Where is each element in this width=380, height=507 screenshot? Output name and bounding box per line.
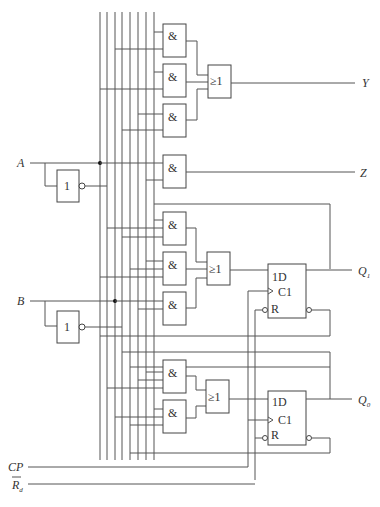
clock-reset-inputs: CP Rd [8, 460, 255, 494]
svg-text:&: & [168, 161, 178, 175]
svg-text:&: & [168, 298, 178, 312]
input-rd-label: Rd [11, 478, 23, 494]
svg-text:≥1: ≥1 [210, 74, 223, 88]
svg-text:&: & [168, 70, 178, 84]
output-q0-label: Q0 [358, 393, 371, 409]
svg-text:R: R [271, 428, 279, 442]
output-y-logic: & & & ≥1 Y [100, 24, 370, 137]
not-gate-b-label: 1 [64, 320, 70, 334]
inverter-bubble-a [79, 183, 85, 189]
input-cp-label: CP [8, 460, 24, 474]
inverter-bubble-b [79, 324, 85, 330]
input-b-label: B [17, 294, 25, 308]
output-z-logic: & Z [100, 155, 367, 188]
svg-text:&: & [168, 29, 178, 43]
output-z-label: Z [360, 166, 367, 180]
not-gate-a-label: 1 [64, 179, 70, 193]
circuit-diagram: A 1 B 1 & & & [0, 0, 380, 507]
svg-text:&: & [168, 258, 178, 272]
svg-text:&: & [168, 218, 178, 232]
svg-text:C1: C1 [278, 285, 292, 299]
svg-text:&: & [168, 406, 178, 420]
svg-text:R: R [271, 302, 279, 316]
q0-logic: & & ≥1 1D C1 R Q0 [107, 352, 371, 453]
input-a-section: A 1 [16, 156, 107, 202]
output-q1-label: Q1 [358, 264, 370, 280]
input-a-label: A [16, 156, 25, 170]
svg-text:&: & [168, 110, 178, 124]
svg-text:≥1: ≥1 [209, 262, 222, 276]
svg-text:1D: 1D [272, 270, 287, 284]
svg-text:C1: C1 [278, 413, 292, 427]
svg-text:1D: 1D [272, 395, 287, 409]
output-y-label: Y [362, 76, 370, 90]
svg-text:≥1: ≥1 [208, 390, 221, 404]
signal-bus [100, 12, 154, 460]
svg-text:&: & [168, 366, 178, 380]
